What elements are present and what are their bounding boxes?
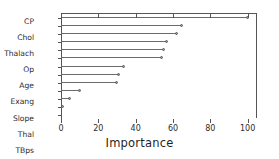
data-point-marker	[175, 32, 178, 35]
y-axis-label-exang: Exang	[10, 98, 34, 106]
y-axis-tick	[58, 67, 61, 68]
data-point-marker	[68, 97, 71, 100]
y-axis-tick	[58, 83, 61, 84]
y-axis-label-op: Op	[23, 66, 34, 74]
x-axis-title: Importance	[0, 136, 279, 150]
x-axis-tick-top	[210, 14, 211, 18]
y-axis-label-chol: Chol	[17, 34, 34, 42]
y-axis-tick	[58, 58, 61, 59]
stem-line	[61, 49, 164, 50]
stem-line	[61, 57, 162, 58]
x-axis-tick	[61, 119, 62, 123]
plot-area: CPCholThalachOpAgeExangSlopeThalTBpsCaGe…	[61, 13, 257, 118]
stem-line	[61, 82, 117, 83]
y-axis-tick	[58, 42, 61, 43]
y-axis-tick	[58, 75, 61, 76]
x-axis-ticklabel: 0	[58, 124, 63, 133]
data-point-marker	[61, 105, 64, 108]
y-axis-tick	[58, 18, 61, 19]
y-axis-label-thalach: Thalach	[4, 50, 34, 58]
x-axis-tick-top	[248, 14, 249, 18]
y-axis-label-age: Age	[19, 82, 34, 90]
y-axis-tick	[58, 91, 61, 92]
x-axis-tick-top	[98, 14, 99, 18]
stem-line	[61, 17, 248, 18]
data-point-marker	[78, 89, 81, 92]
stem-line	[61, 74, 119, 75]
x-axis-ticklabel: 80	[205, 124, 215, 133]
x-axis-ticklabel: 40	[131, 124, 141, 133]
stem-line	[61, 66, 124, 67]
stem-line	[61, 25, 182, 26]
data-point-marker	[162, 48, 165, 51]
x-axis-tick	[136, 119, 137, 123]
y-axis-label-cp: CP	[24, 18, 34, 26]
data-point-marker	[180, 24, 183, 27]
stem-line	[61, 90, 80, 91]
data-point-marker	[117, 73, 120, 76]
y-axis-tick	[58, 34, 61, 35]
x-axis-tick-top	[136, 14, 137, 18]
importance-lollipop-chart: CPCholThalachOpAgeExangSlopeThalTBpsCaGe…	[0, 0, 279, 159]
x-axis-ticklabel: 60	[168, 124, 178, 133]
x-axis-tick	[98, 119, 99, 123]
x-axis-tick-top	[173, 14, 174, 18]
y-axis-tick	[58, 50, 61, 51]
data-point-marker	[122, 65, 125, 68]
y-axis-label-slope: Slope	[13, 115, 34, 123]
data-point-marker	[165, 40, 168, 43]
x-axis-ticklabel: 100	[240, 124, 255, 133]
data-point-marker	[115, 81, 118, 84]
x-axis-ticklabel: 20	[93, 124, 103, 133]
y-axis-tick	[58, 99, 61, 100]
y-axis-tick	[58, 26, 61, 27]
x-axis-tick-top	[61, 14, 62, 18]
x-axis-tick	[248, 119, 249, 123]
stem-line	[61, 33, 177, 34]
stem-line	[61, 41, 167, 42]
data-point-marker	[160, 56, 163, 59]
y-axis-tick	[58, 115, 61, 116]
x-axis-tick	[173, 119, 174, 123]
x-axis-tick	[210, 119, 211, 123]
